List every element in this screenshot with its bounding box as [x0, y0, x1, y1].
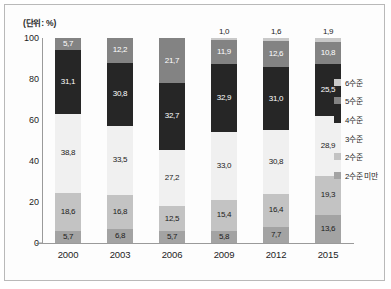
legend-item[interactable]: 2수준 — [334, 147, 391, 166]
y-tick-label: 100 — [13, 33, 39, 43]
legend-item[interactable]: 2수준 미만 — [334, 166, 391, 185]
legend-item[interactable]: 5수준 — [334, 92, 391, 111]
legend-label: 4수준 — [345, 114, 362, 125]
x-tick-label: 2003 — [90, 249, 150, 260]
legend-label: 3수준 — [345, 133, 362, 144]
y-tick-label: 0 — [13, 238, 39, 248]
legend-item[interactable]: 4수준 — [334, 110, 391, 129]
x-tick-label: 2009 — [194, 249, 254, 260]
legend-label: 2수준 — [345, 151, 362, 162]
x-tick-label: 2015 — [298, 249, 358, 260]
legend-label: 5수준 — [345, 95, 362, 106]
chart-frame: (단위: %) 020406080100 5,718,638,831,15,76… — [4, 4, 385, 281]
legend-swatch — [334, 135, 341, 142]
legend-swatch — [334, 79, 341, 86]
x-tick-label: 2012 — [246, 249, 306, 260]
y-tick-label: 40 — [13, 156, 39, 166]
y-tick-label: 60 — [13, 115, 39, 125]
y-tick-label: 20 — [13, 197, 39, 207]
legend-item[interactable]: 3수준 — [334, 129, 391, 148]
legend: 6수준5수준4수준3수준2수준2수준 미만 — [334, 73, 391, 185]
plot-area: (단위: %) 020406080100 5,718,638,831,15,76… — [5, 5, 384, 280]
x-tick-label: 2000 — [38, 249, 98, 260]
legend-label: 2수준 미만 — [345, 170, 378, 181]
legend-swatch — [334, 153, 341, 160]
y-axis-ticks: 020406080100 — [5, 5, 39, 280]
y-tick-label: 80 — [13, 74, 39, 84]
legend-swatch — [334, 97, 341, 104]
legend-label: 6수준 — [345, 77, 362, 88]
legend-swatch — [334, 172, 341, 179]
legend-swatch — [334, 116, 341, 123]
x-tick-label: 2006 — [142, 249, 202, 260]
x-axis-ticks: 200020032006200920122015 — [42, 5, 354, 280]
legend-item[interactable]: 6수준 — [334, 73, 391, 92]
